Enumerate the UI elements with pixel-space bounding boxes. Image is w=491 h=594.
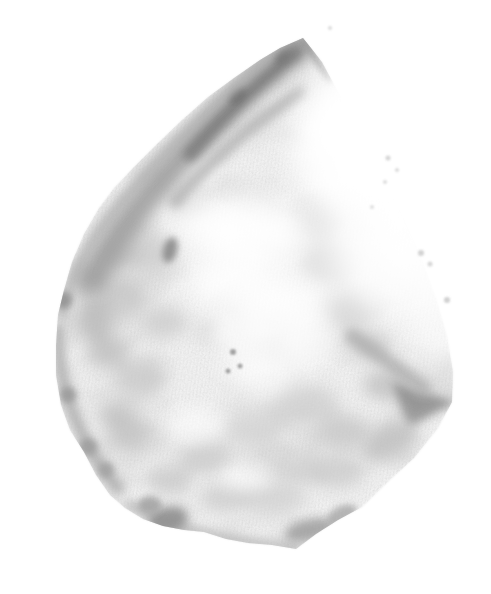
rock-illustration — [0, 0, 491, 594]
rock-svg — [0, 0, 491, 594]
page-background — [0, 0, 491, 594]
